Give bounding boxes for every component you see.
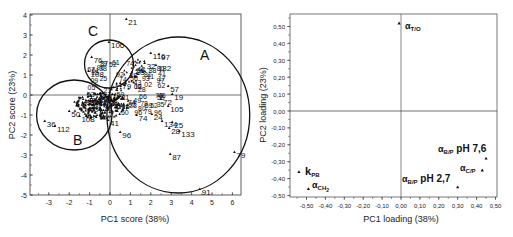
y-tick-label: 2 (23, 52, 27, 59)
loading-plot: -0,50-0,40-0,30-0,20-0,100,000,100,200,3… (258, 14, 502, 224)
x-tick-label: -0,40 (319, 203, 333, 209)
score-marker-icon (43, 120, 46, 123)
y-tick-label: 0,40 (273, 41, 285, 47)
loading-marker-icon (297, 170, 300, 173)
y-tick-label: 3 (23, 32, 27, 39)
score-marker-icon (68, 110, 71, 113)
score-marker-icon (125, 18, 128, 21)
cluster-marker-icon (104, 111, 107, 113)
cluster-marker-icon (143, 60, 145, 62)
y-tick-label: 1 (23, 72, 27, 79)
y-tick-label: -0,10 (271, 125, 285, 131)
cluster-marker-icon (81, 96, 84, 98)
y-tick-label: 0,00 (273, 109, 285, 115)
cluster-marker-icon (115, 114, 118, 116)
x-tick-label: 6 (230, 199, 234, 206)
cluster-marker-icon (115, 82, 117, 84)
loading-marker-icon (484, 157, 487, 160)
y-tick-label: 0 (23, 92, 27, 99)
cluster-point-label: 74 (126, 60, 134, 67)
loading-x-axis-label: PC1 loading (38%) (363, 214, 439, 224)
cluster-marker-icon (126, 71, 128, 73)
score-point-label: 36 (47, 120, 56, 129)
x-tick-label: 0 (108, 199, 112, 206)
loading-marker-icon (456, 185, 459, 188)
y-tick-label: -2 (21, 132, 27, 139)
score-point-label: 182 (158, 64, 172, 73)
x-tick-label: 1 (128, 199, 132, 206)
cluster-point-label: 61 (112, 59, 120, 66)
cluster-point-label: 59 (117, 91, 125, 98)
cluster-point-label: 62 (158, 82, 166, 89)
score-point-label: 133 (181, 130, 195, 139)
x-tick-label: -0,10 (375, 203, 389, 209)
cluster-marker-icon (137, 58, 139, 60)
cluster-marker-icon (102, 114, 105, 116)
loading-marker-icon (307, 187, 310, 190)
label-alpha-bp-ph27: αB/P pH 2,7 (402, 173, 451, 185)
x-tick-label: 3 (169, 199, 173, 206)
loading-y-axis-label: PC2 loading (23%) (258, 67, 268, 143)
group-label-a: A (200, 47, 210, 63)
score-plot: -3-2-1012345643210-1-2-3-4-5 50380253556… (7, 12, 250, 225)
y-tick-label: 0,10 (273, 92, 285, 98)
cluster-marker-icon (134, 60, 136, 62)
y-tick-label: 0,30 (273, 58, 285, 64)
score-point-label: 112 (57, 125, 70, 134)
cluster-marker-icon (104, 109, 107, 111)
label-alpha-c-p: αC/P (460, 163, 476, 174)
loading-marker-icon (481, 169, 484, 172)
score-point-label: 32 (147, 62, 156, 71)
label-alpha-bp-ph76: αB/P pH 7,6 (438, 143, 487, 155)
x-tick-label: -1 (86, 199, 92, 206)
x-tick-label: 4 (190, 199, 194, 206)
cluster-point-label: 12 (134, 83, 142, 90)
cluster-point-label: 66 (139, 93, 147, 100)
score-point-label: 79 (236, 151, 245, 160)
group-label-b: B (73, 132, 82, 148)
x-tick-label: -0,30 (337, 203, 351, 209)
score-point-label: 91 (202, 188, 211, 197)
cluster-point-label: 56 (130, 75, 138, 82)
score-point-label: 108 (91, 70, 105, 79)
x-tick-label: 5 (210, 199, 214, 206)
score-marker-icon (119, 131, 122, 134)
y-tick-label: -3 (21, 152, 27, 159)
x-tick-label: -2 (66, 199, 72, 206)
score-x-axis-label: PC1 score (38%) (101, 214, 170, 224)
cluster-point-label: 21 (104, 87, 112, 94)
score-point-label: 21 (128, 18, 137, 27)
score-marker-icon (90, 56, 93, 59)
y-tick-label: -0,20 (271, 142, 285, 148)
score-point-label: 41 (110, 119, 119, 128)
x-tick-label: 0,40 (471, 203, 483, 209)
score-marker-icon (233, 151, 236, 154)
y-tick-label: -1 (21, 112, 27, 119)
score-point-label: 19 (174, 93, 183, 102)
group-label-c: C (88, 23, 98, 39)
cluster-point-label: 69 (145, 102, 153, 109)
y-tick-label: -4 (21, 172, 27, 179)
cluster-marker-icon (96, 114, 99, 116)
cluster-point-label: 92 (128, 101, 136, 108)
score-point-label: 76 (94, 56, 103, 65)
cluster-marker-icon (114, 96, 116, 98)
score-point-label: 96 (122, 131, 131, 140)
score-point-label: 74 (139, 114, 148, 123)
cluster-point-label: 59 (110, 99, 118, 106)
y-tick-label: 0,50 (273, 24, 285, 30)
y-tick-label: -5 (21, 192, 27, 199)
x-tick-label: -0,50 (300, 203, 314, 209)
label-alpha-ch2: αCH2 (312, 180, 329, 193)
cluster-point-label: 92 (116, 71, 124, 78)
score-point-label: 87 (172, 153, 181, 162)
score-point-label: 97 (161, 53, 170, 62)
cluster-point-label: 11 (147, 73, 154, 80)
x-tick-label: 0,50 (490, 203, 502, 209)
score-marker-icon (143, 62, 146, 65)
cluster-point-label: 56 (137, 67, 145, 74)
x-tick-label: 0,10 (414, 203, 426, 209)
y-tick-label: -0,30 (271, 159, 285, 165)
label-k-pb: kPB (305, 165, 320, 178)
y-tick-label: 0,20 (273, 75, 285, 81)
